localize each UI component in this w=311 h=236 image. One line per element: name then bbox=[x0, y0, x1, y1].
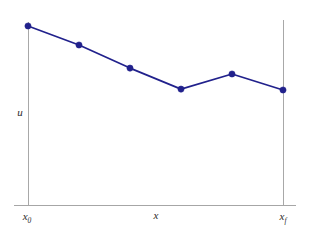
line-chart-svg: u x x0 xf bbox=[0, 0, 311, 236]
data-point bbox=[229, 71, 235, 77]
data-point bbox=[127, 65, 133, 71]
x-end-subscript: f bbox=[284, 216, 287, 225]
data-point bbox=[178, 86, 184, 92]
data-point bbox=[76, 42, 82, 48]
x-start-tick-label: x0 bbox=[22, 210, 32, 225]
data-point bbox=[280, 87, 286, 93]
data-point bbox=[25, 23, 31, 29]
x-start-subscript: 0 bbox=[28, 216, 32, 225]
chart-figure: u x x0 xf bbox=[0, 0, 311, 236]
x-end-tick-label: xf bbox=[279, 210, 288, 225]
x-axis-label: x bbox=[153, 209, 159, 221]
series-line-u bbox=[28, 26, 283, 90]
y-axis-label: u bbox=[17, 106, 23, 118]
